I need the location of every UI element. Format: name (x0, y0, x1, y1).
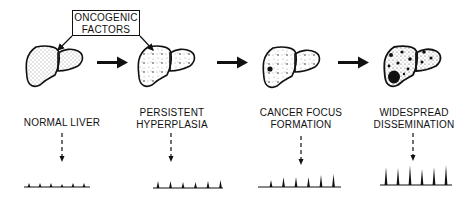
spike (219, 180, 222, 188)
spike (307, 177, 310, 187)
arrow-3 (338, 57, 369, 69)
spike (433, 167, 436, 185)
liver-normal (26, 46, 82, 86)
spike (332, 174, 335, 187)
spike (182, 182, 185, 188)
oncogenic-arrows (58, 36, 153, 50)
spike (83, 183, 86, 187)
liver-hyperplasia (138, 46, 194, 86)
spike-traces (24, 165, 452, 188)
box-line-2: FACTORS (73, 24, 139, 36)
arrow-2 (217, 57, 248, 69)
spike (421, 169, 424, 185)
spike (61, 184, 64, 187)
spike (50, 183, 53, 187)
box-line-1: ONCOGENIC (73, 12, 139, 24)
spike (282, 177, 285, 187)
spike (39, 183, 42, 187)
spike (445, 165, 448, 185)
spike (194, 182, 197, 188)
spike (207, 181, 210, 188)
spike (270, 180, 273, 187)
spike (28, 183, 31, 187)
spike (409, 165, 412, 185)
spike (397, 168, 400, 185)
stage-label-normal: NORMAL LIVER (10, 117, 114, 129)
spike (72, 183, 75, 187)
liver-cancer-focus (263, 47, 319, 87)
dashed-arrows (62, 133, 413, 161)
spike (157, 181, 160, 188)
stage-label-cancer-focus: CANCER FOCUS FORMATION (249, 107, 353, 131)
spike (385, 167, 388, 185)
spike (169, 181, 172, 188)
spike (295, 177, 298, 187)
liver-widespread (384, 46, 440, 86)
spike (320, 175, 323, 187)
stage-label-hyperplasia: PERSISTENT HYPERPLASIA (120, 107, 224, 131)
cancer-focus-dot (267, 66, 272, 71)
stage-label-dissemination: WIDESPREAD DISSEMINATION (362, 107, 466, 131)
arrow-1 (97, 57, 128, 69)
oncogenic-factors-box: ONCOGENIC FACTORS (72, 10, 140, 36)
